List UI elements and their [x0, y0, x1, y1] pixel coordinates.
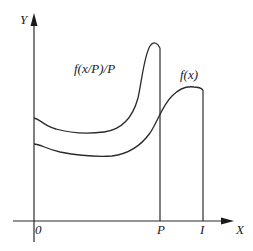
y-axis-arrow-icon [31, 13, 38, 26]
original-curve [34, 87, 203, 156]
scaled-curve [34, 43, 160, 133]
scaled-curve-label: f(x/P)/P [74, 61, 115, 76]
x-axis-arrow-icon [221, 218, 234, 225]
diagram-canvas: Y X 0 P I f(x/P)/P f(x) [0, 0, 253, 251]
p-marker-label: P [156, 222, 165, 237]
origin-label: 0 [35, 222, 42, 237]
y-axis-label: Y [20, 12, 29, 27]
original-curve-label: f(x) [180, 67, 198, 82]
x-axis-label: X [235, 222, 245, 237]
i-marker-label: I [199, 222, 205, 237]
